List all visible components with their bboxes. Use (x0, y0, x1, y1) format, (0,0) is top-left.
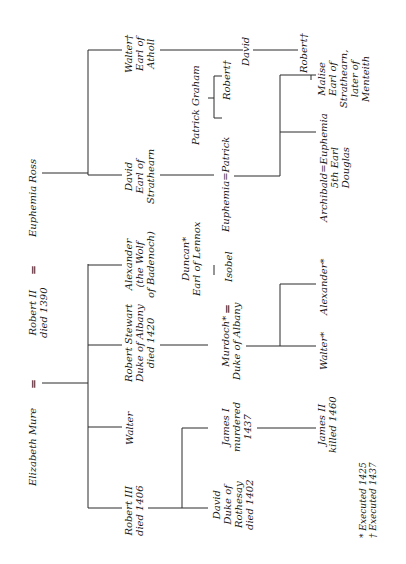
family-tree-diagram: Elizabeth Mure = Robert II died 1390 = E… (0, 0, 406, 564)
person-robert-atholl-grandson: Robert† (298, 33, 309, 73)
legend-executed-1425: * Executed 1425 (358, 462, 368, 538)
person-elizabeth-mure: Elizabeth Mure (27, 408, 38, 486)
person-murdoch-duke-of-albany: Murdoch* Duke of Albany (220, 303, 242, 380)
marriage-euphemia-patrick: Euphemia=Patrick (220, 137, 231, 232)
person-james-ii: James II killed 1460 (316, 396, 338, 453)
person-isobel: Isobel (223, 251, 234, 282)
person-robert-ii: Robert II died 1390 (27, 287, 49, 338)
person-patrick-graham: Patrick Graham (190, 65, 201, 145)
person-david-earl-of-strathearn: David Earl of Strathearn (123, 149, 156, 204)
person-walter-albany: Walter* (318, 332, 329, 370)
person-walter-earl-of-atholl: Walter† Earl of Atholl (123, 35, 156, 73)
person-archibald-euphemia: Archibald=Euphemia 5th Earl Douglas (318, 113, 351, 222)
person-alexander-wolf-of-badenoch: Alexander (the Wolf of Badenoch) (123, 231, 156, 298)
person-james-i: James I murdered 1437 (220, 402, 253, 452)
marriage-sign: = (220, 304, 234, 314)
legend-executed-1437: † Executed 1437 (368, 462, 378, 538)
person-alexander-albany: Alexander* (318, 259, 329, 315)
person-robert-graham: Robert† (221, 60, 232, 100)
marriage-sign: = (26, 265, 40, 275)
person-duncan-earl-of-lennox: Duncan* Earl of Lennox (180, 222, 202, 296)
person-david-duke-of-rothesay: David Duke of Rothesay died 1402 (211, 479, 255, 530)
person-walter: Walter (124, 412, 135, 445)
person-robert-stewart: Robert Stewart Duke of Albany died 1420 (123, 304, 156, 382)
person-robert-iii: Robert III died 1406 (123, 485, 145, 536)
person-david-atholl-son: David (240, 37, 251, 66)
person-euphemia-ross: Euphemia Ross (27, 159, 38, 237)
legend: * Executed 1425 † Executed 1437 (358, 462, 378, 538)
person-malise-earl-of-strathearn: Malise Earl of Strathearn, later of Ment… (316, 50, 371, 108)
marriage-sign: = (26, 379, 40, 389)
